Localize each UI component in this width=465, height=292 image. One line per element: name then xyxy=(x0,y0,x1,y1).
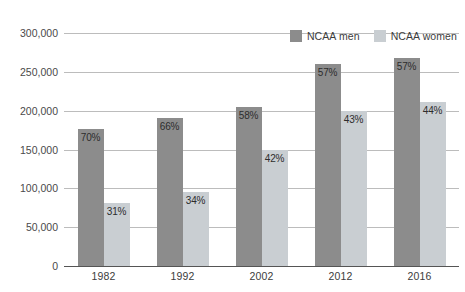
y-tick-label: 0 xyxy=(0,260,58,272)
y-tick-label: 200,000 xyxy=(0,105,58,117)
plot-area: 70%31%66%34%58%42%57%43%57%44% xyxy=(64,33,459,266)
y-tick-label: 150,000 xyxy=(0,144,58,156)
chart-legend: NCAA men NCAA women xyxy=(290,30,457,42)
bar[interactable]: 31% xyxy=(104,203,130,266)
bar-chart: NCAA men NCAA women 300,000 250,000 200,… xyxy=(0,0,465,292)
bar-groups: 70%31%66%34%58%42%57%43%57%44% xyxy=(64,33,459,266)
bar-group: 57%43% xyxy=(301,33,380,266)
bar[interactable]: 57% xyxy=(394,58,420,266)
legend-label-ncaa-men: NCAA men xyxy=(307,30,360,42)
legend-item-ncaa-women: NCAA women xyxy=(374,30,457,42)
y-axis: 300,000 250,000 200,000 150,000 100,000 … xyxy=(0,33,58,266)
bar-value-label: 57% xyxy=(318,67,337,78)
bar[interactable]: 66% xyxy=(157,118,183,266)
bar-value-label: 34% xyxy=(186,195,205,206)
bar-value-label: 31% xyxy=(107,206,126,217)
y-tick-label: 50,000 xyxy=(0,221,58,233)
x-tick-label: 1992 xyxy=(143,270,222,282)
x-tick-label: 1982 xyxy=(64,270,143,282)
legend-swatch-ncaa-women xyxy=(374,30,386,42)
bar[interactable]: 34% xyxy=(183,192,209,266)
bar-value-label: 57% xyxy=(397,61,416,72)
x-tick-label: 2002 xyxy=(222,270,301,282)
y-tick-label: 300,000 xyxy=(0,27,58,39)
y-tick-label: 250,000 xyxy=(0,66,58,78)
bar-value-label: 43% xyxy=(344,114,363,125)
legend-label-ncaa-women: NCAA women xyxy=(391,30,457,42)
bar-value-label: 58% xyxy=(239,110,258,121)
bar-group: 58%42% xyxy=(222,33,301,266)
bar[interactable]: 70% xyxy=(78,129,104,266)
bar-value-label: 70% xyxy=(81,132,100,143)
bar[interactable]: 42% xyxy=(262,150,288,267)
legend-item-ncaa-men: NCAA men xyxy=(290,30,360,42)
bar[interactable]: 44% xyxy=(420,102,446,266)
bar-value-label: 44% xyxy=(423,105,442,116)
x-tick-label: 2012 xyxy=(301,270,380,282)
x-axis: 19821992200220122016 xyxy=(64,270,459,282)
bar[interactable]: 57% xyxy=(315,64,341,266)
x-tick-label: 2016 xyxy=(380,270,459,282)
bar[interactable]: 58% xyxy=(236,107,262,266)
bar-value-label: 42% xyxy=(265,153,284,164)
bar-group: 66%34% xyxy=(143,33,222,266)
y-tick-label: 100,000 xyxy=(0,182,58,194)
bar-group: 70%31% xyxy=(64,33,143,266)
bar-group: 57%44% xyxy=(380,33,459,266)
bar[interactable]: 43% xyxy=(341,111,367,266)
bar-value-label: 66% xyxy=(160,121,179,132)
legend-swatch-ncaa-men xyxy=(290,30,302,42)
